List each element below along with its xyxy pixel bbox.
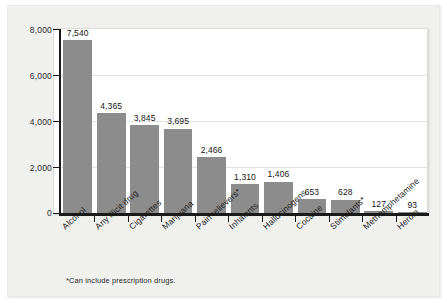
x-label-heroin: Heroin: [395, 207, 421, 232]
x-axis-labels: Alcohol Any illicit drug Cigarettes Mari…: [8, 6, 441, 298]
x-axis-line: [59, 213, 429, 216]
x-label-alcohol: Alcohol: [60, 205, 88, 232]
x-label-methamphetamine: Methamphetamine: [361, 176, 421, 232]
x-label-cocaine: Cocaine: [294, 203, 324, 232]
chart-footnote: *Can include prescription drugs.: [66, 276, 176, 285]
chart-panel: 8,000 6,000 4,000 2,000 0 7,540 4,365 3,…: [7, 5, 440, 297]
